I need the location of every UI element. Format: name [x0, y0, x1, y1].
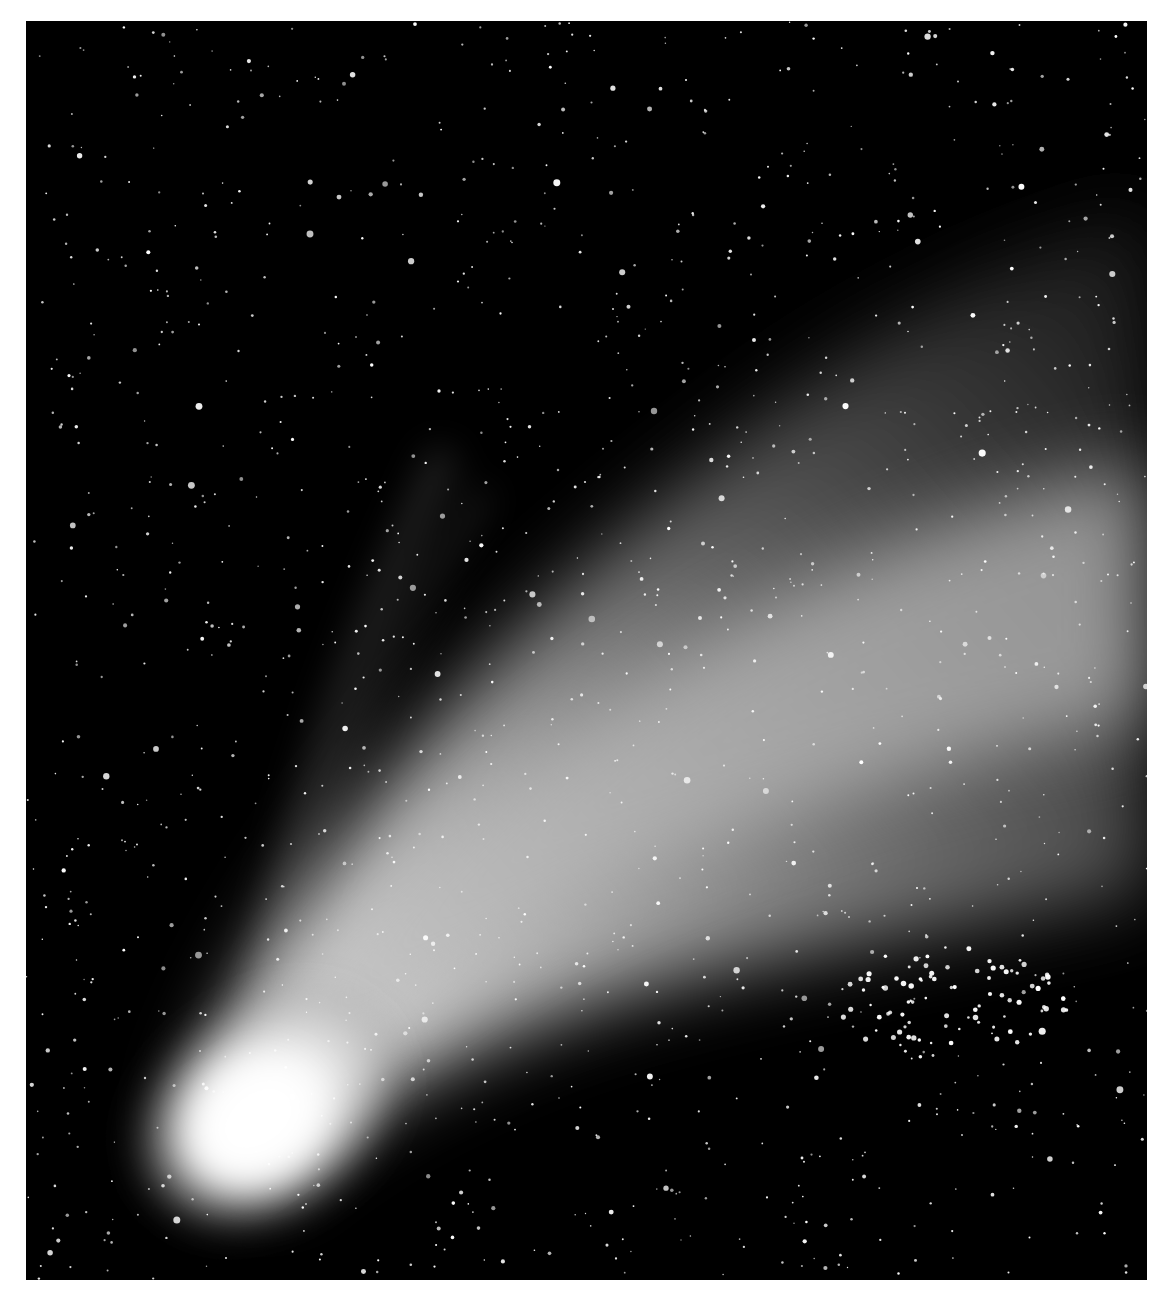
comet-scene — [26, 21, 1147, 1280]
comet-photograph: Bright comet with a large, sweeping whit… — [26, 21, 1147, 1280]
